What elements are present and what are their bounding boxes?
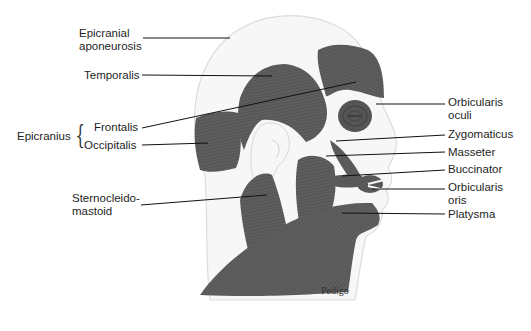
label-line: Zygomaticus: [448, 128, 513, 141]
label-platysma: Platysma: [448, 208, 495, 221]
label-line: oris: [448, 194, 503, 207]
label-line: Occipitalis: [84, 139, 136, 152]
label-line: Buccinator: [448, 163, 502, 176]
frontalis-muscle: [318, 45, 384, 98]
label-line: Frontalis: [94, 121, 138, 134]
label-orbicularis-oculi: Orbicularis oculi: [448, 96, 503, 122]
label-line: aponeurosis: [79, 40, 142, 53]
label-line: Platysma: [448, 208, 495, 221]
label-line: Masseter: [448, 146, 495, 159]
label-epicranial-aponeurosis: Epicranial aponeurosis: [79, 27, 142, 53]
label-line: Epicranial: [79, 27, 142, 40]
label-sternocleidomastoid: Sternocleido- mastoid: [72, 192, 140, 218]
label-zygomaticus: Zygomaticus: [448, 128, 513, 141]
label-epicranius: Epicranius: [17, 130, 71, 143]
label-masseter: Masseter: [448, 146, 495, 159]
label-line: Temporalis: [84, 69, 140, 82]
label-temporalis: Temporalis: [84, 69, 140, 82]
label-occipitalis: Occipitalis: [84, 139, 136, 152]
label-orbicularis-oris: Orbicularis oris: [448, 181, 503, 207]
artist-signature: Pedigo: [321, 285, 349, 296]
label-line: Orbicularis: [448, 96, 503, 109]
occipitalis-muscle: [195, 112, 241, 172]
label-line: Sternocleido-: [72, 192, 140, 205]
epicranius-brace: {: [75, 122, 85, 148]
label-buccinator: Buccinator: [448, 163, 502, 176]
label-line: oculi: [448, 109, 503, 122]
label-line: mastoid: [72, 205, 140, 218]
label-line: Orbicularis: [448, 181, 503, 194]
label-frontalis: Frontalis: [94, 121, 138, 134]
